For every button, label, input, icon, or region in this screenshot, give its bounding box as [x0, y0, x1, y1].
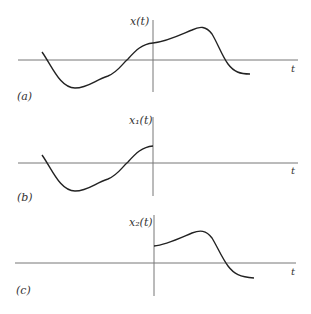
- panel-c-label: (c): [16, 284, 31, 297]
- panel-c-signal-curve: [154, 231, 254, 278]
- panel-b-t-label: t: [291, 165, 296, 176]
- panel-c-y-label: x₂(t): [129, 216, 153, 229]
- panel-b-y-label: x₁(t): [129, 114, 153, 127]
- panel-b: x₁(t) t (b): [17, 114, 298, 204]
- panel-a-t-label: t: [291, 63, 296, 74]
- panel-a-label: (a): [17, 90, 32, 103]
- panel-a-signal-curve: [42, 27, 250, 88]
- panel-a-y-label: x(t): [130, 15, 149, 28]
- panel-b-label: (b): [17, 191, 33, 204]
- panel-c-t-label: t: [291, 266, 296, 277]
- panel-b-signal-curve: [42, 146, 153, 191]
- panel-c: x₂(t) t (c): [15, 215, 296, 297]
- signal-decomposition-figure: x(t) t (a) x₁(t) t (b) x₂(t) t (c): [0, 0, 311, 314]
- panel-a: x(t) t (a): [17, 15, 298, 103]
